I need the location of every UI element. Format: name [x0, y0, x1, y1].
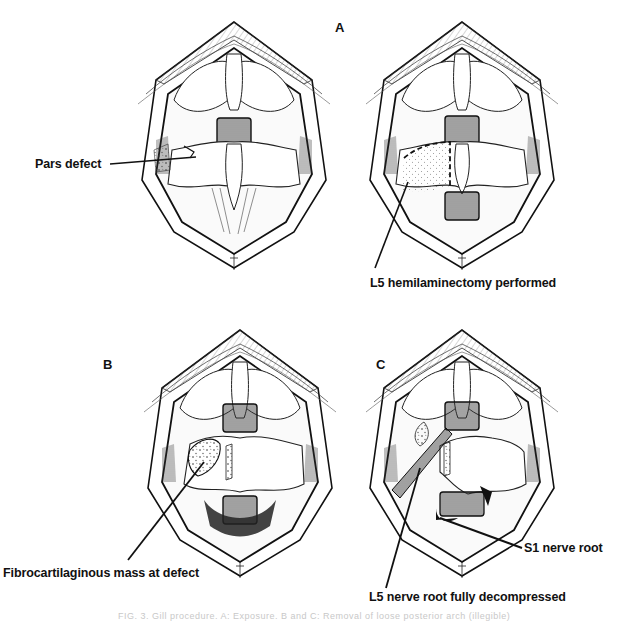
panel-letter-b: B	[103, 357, 112, 372]
illustration-art	[0, 0, 619, 621]
label-l5-nerve-root: L5 nerve root fully decompressed	[369, 590, 566, 604]
label-s1-nerve-root: S1 nerve root	[524, 541, 603, 555]
label-hemilaminectomy: L5 hemilaminectomy performed	[370, 276, 556, 290]
label-pars-defect: Pars defect	[35, 157, 101, 171]
surgical-illustration-figure: A B C Pars defect L5 hemilaminectomy per…	[0, 0, 619, 621]
panel-letter-c: C	[376, 357, 385, 372]
panel-letter-a: A	[335, 20, 344, 35]
panel-b-illustration	[144, 330, 336, 578]
label-fibrocartilaginous-mass: Fibrocartilaginous mass at defect	[3, 566, 199, 580]
panel-a-illustration	[138, 22, 330, 270]
figure-caption: FIG. 3. Gill procedure. A: Exposure. B a…	[118, 611, 510, 621]
panel-a2-illustration	[366, 22, 558, 270]
